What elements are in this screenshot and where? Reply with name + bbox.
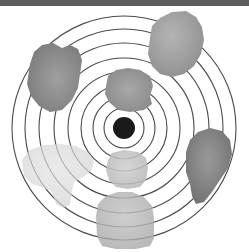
blob-center-low: [106, 150, 148, 189]
figure-canvas: [0, 0, 249, 252]
blob-right: [186, 128, 232, 204]
ring-target-figure: [0, 0, 249, 252]
blob-left-light: [22, 144, 94, 208]
blob-top-left: [27, 43, 82, 112]
center-dot-shape: [113, 117, 135, 139]
center-dot: [113, 117, 135, 139]
blob-upper-center: [105, 68, 153, 112]
blob-bottom-center: [96, 192, 154, 249]
